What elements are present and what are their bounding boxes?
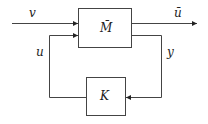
label-u: u (36, 45, 44, 59)
label-y: y (166, 45, 174, 59)
label-ubar: ū (174, 6, 182, 20)
label-plant: M̄ (99, 20, 113, 35)
label-controller: K (99, 89, 110, 103)
label-v: v (29, 6, 36, 20)
block-diagram: v M̄ ū u y K (0, 0, 208, 124)
control-u-line (50, 36, 87, 98)
